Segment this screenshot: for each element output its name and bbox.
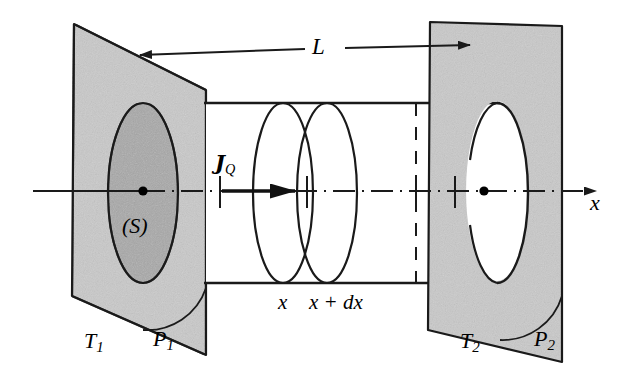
length-dimension-line-left [140, 49, 305, 55]
axis-label: x [590, 192, 600, 214]
length-dimension-group [140, 45, 470, 55]
temperature-left-label: T1 [84, 330, 104, 355]
slice-end-label: x + dx [309, 292, 363, 313]
axis-center-dot-left [138, 186, 147, 195]
thermal-conduction-figure: L T1 P1 T2 P2 (S) x x x + dx JQ [0, 0, 635, 389]
slice-start-label: x [278, 292, 287, 313]
heat-flux-label: JQ [215, 152, 235, 176]
temperature-right-label: T2 [460, 330, 480, 355]
length-label: L [312, 35, 325, 58]
plane-right-label: P2 [534, 328, 555, 353]
surface-label: (S) [122, 215, 148, 237]
plane-left-label: P1 [153, 328, 174, 353]
cylinder-body-fill [206, 103, 528, 283]
axis-center-dot-right [479, 186, 488, 195]
